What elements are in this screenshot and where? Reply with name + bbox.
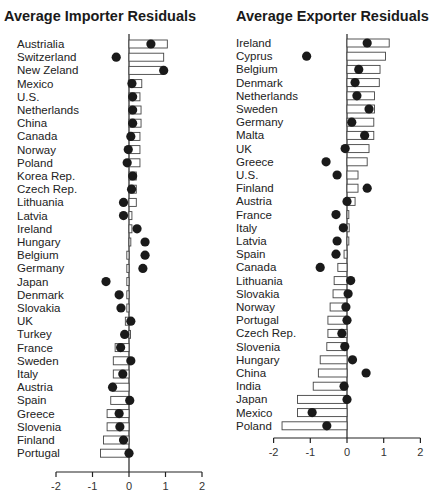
- importer-category-label: Slovenia: [17, 421, 62, 433]
- importer-category-label: Sweden: [17, 355, 59, 367]
- exporter-category-label: Lithuania: [236, 275, 283, 287]
- exporter-dot: [354, 65, 363, 74]
- importer-dot: [128, 171, 137, 180]
- importer-chart-title: Average Importer Residuals: [4, 8, 196, 24]
- exporter-category-label: Germany: [236, 116, 284, 128]
- importer-bar: [129, 53, 164, 61]
- importer-category-label: Hungary: [17, 236, 61, 248]
- importer-x-tick-label: 1: [162, 480, 168, 492]
- importer-category-label: U.S.: [17, 91, 39, 103]
- exporter-category-label: Austria: [236, 195, 272, 207]
- importer-dot: [146, 39, 155, 48]
- importer-bar: [129, 330, 131, 338]
- exporter-category-label: Cyprus: [236, 50, 273, 62]
- exporter-category-label: Greece: [236, 156, 274, 168]
- exporter-bar: [338, 263, 347, 271]
- exporter-dot: [340, 342, 349, 351]
- importer-dot: [127, 79, 136, 88]
- exporter-bar: [347, 145, 369, 153]
- importer-dot: [140, 237, 149, 246]
- importer-dot: [124, 145, 133, 154]
- importer-category-label: Denmark: [17, 289, 64, 301]
- importer-category-label: Norway: [17, 144, 56, 156]
- exporter-category-label: Malta: [236, 129, 265, 141]
- importer-bar: [127, 264, 129, 272]
- exporter-dot: [364, 104, 373, 113]
- importer-category-label: Portugal: [17, 447, 60, 459]
- exporter-bar: [344, 250, 347, 258]
- importer-dot: [126, 317, 135, 326]
- importer-dot: [120, 330, 129, 339]
- exporter-category-label: Sweden: [236, 103, 278, 115]
- exporter-category-label: Mexico: [236, 407, 272, 419]
- exporter-dot: [341, 144, 350, 153]
- exporter-bar: [297, 395, 347, 403]
- importer-dot: [126, 132, 135, 141]
- exporter-dot: [322, 421, 331, 430]
- exporter-category-label: Canada: [236, 261, 277, 273]
- exporter-dot: [363, 38, 372, 47]
- exporter-chart-title: Average Exporter Residuals: [236, 8, 429, 24]
- exporter-dot: [344, 289, 353, 298]
- importer-dot: [132, 224, 141, 233]
- importer-category-label: Germany: [17, 262, 65, 274]
- exporter-bar: [282, 422, 347, 430]
- exporter-bar: [347, 237, 349, 245]
- exporter-x-tick-label: 2: [417, 446, 423, 458]
- importer-category-label: New Zeland: [17, 64, 78, 76]
- exporter-x-tick-label: 1: [381, 446, 387, 458]
- exporter-dot: [339, 382, 348, 391]
- importer-dot: [127, 185, 136, 194]
- importer-category-label: Switzerland: [17, 51, 76, 63]
- exporter-bar: [347, 52, 386, 60]
- importer-dot: [124, 449, 133, 458]
- importer-dot: [116, 303, 125, 312]
- exporter-dot: [332, 170, 341, 179]
- importer-dot: [101, 277, 110, 286]
- exporter-dot: [337, 329, 346, 338]
- importer-category-label: Japan: [17, 276, 48, 288]
- exporter-category-label: Finland: [236, 182, 274, 194]
- exporter-dot: [360, 131, 369, 140]
- exporter-category-label: Portugal: [236, 314, 279, 326]
- exporter-category-label: Hungary: [236, 354, 280, 366]
- importer-bar: [127, 251, 129, 259]
- importer-dot: [108, 383, 117, 392]
- importer-dot: [123, 158, 132, 167]
- importer-bar: [129, 212, 132, 220]
- importer-dot: [128, 105, 137, 114]
- exporter-category-label: Norway: [236, 301, 275, 313]
- exporter-bar: [334, 277, 347, 285]
- exporter-dot: [347, 118, 356, 127]
- exporter-dot: [316, 263, 325, 272]
- exporter-bar: [320, 356, 347, 364]
- importer-category-label: Italy: [17, 368, 38, 380]
- exporter-category-label: U.S.: [236, 169, 258, 181]
- importer-category-label: Latvia: [17, 210, 48, 222]
- exporter-dot: [363, 184, 372, 193]
- importer-bar: [129, 66, 164, 74]
- exporter-bar: [297, 409, 347, 417]
- importer-dot: [119, 435, 128, 444]
- importer-dot: [125, 396, 134, 405]
- importer-category-label: Austrialia: [17, 38, 65, 50]
- exporter-dot: [361, 368, 370, 377]
- exporter-dot: [302, 52, 311, 61]
- importer-dot: [116, 343, 125, 352]
- exporter-category-label: Czech Rep.: [236, 327, 296, 339]
- exporter-dot: [332, 236, 341, 245]
- importer-bar: [129, 198, 136, 206]
- importer-category-label: China: [17, 117, 48, 129]
- importer-dot: [112, 53, 121, 62]
- importer-dot: [118, 369, 127, 378]
- importer-category-label: Czech Rep.: [17, 183, 77, 195]
- exporter-category-label: Slovakia: [236, 288, 280, 300]
- exporter-x-tick-label: -2: [269, 446, 279, 458]
- importer-category-label: Korea Rep.: [17, 170, 75, 182]
- exporter-category-label: India: [236, 380, 262, 392]
- importer-category-label: Greece: [17, 408, 55, 420]
- exporter-bar: [347, 184, 358, 192]
- exporter-category-label: Ireland: [236, 37, 271, 49]
- exporter-dot: [341, 302, 350, 311]
- importer-category-label: UK: [17, 315, 33, 327]
